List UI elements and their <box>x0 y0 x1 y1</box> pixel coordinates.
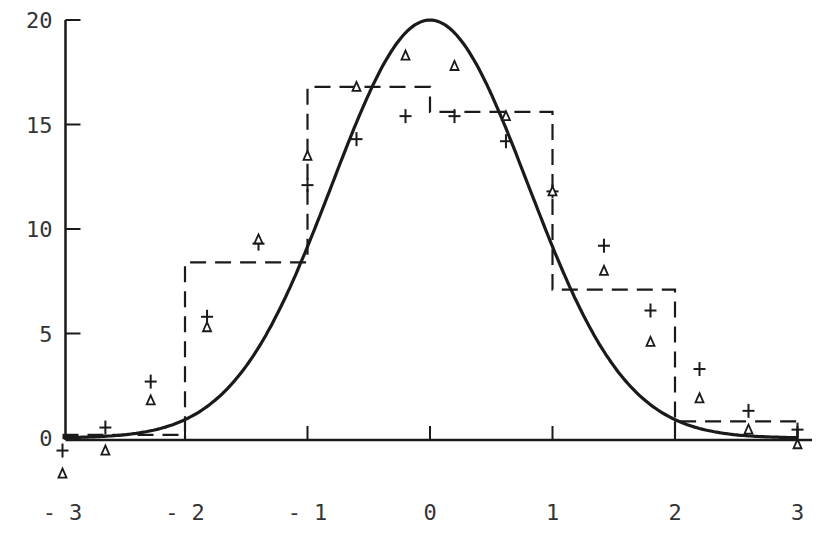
plus-marker <box>694 362 706 376</box>
x-tick-label: - 2 <box>165 500 205 525</box>
x-tick-label: 1 <box>546 500 559 525</box>
triangle-marker <box>304 151 312 160</box>
x-tick-label: 0 <box>423 500 436 525</box>
triangle-marker <box>549 186 557 195</box>
triangle-marker <box>451 61 459 70</box>
triangle-marker <box>59 469 67 478</box>
plus-markers <box>57 109 804 457</box>
y-tick-label: 20 <box>26 8 53 33</box>
x-tick-label: 3 <box>791 500 804 525</box>
triangle-marker <box>203 322 211 331</box>
y-tick-label: 10 <box>26 217 53 242</box>
plus-marker <box>145 375 157 389</box>
triangle-marker <box>353 82 361 91</box>
triangle-marker <box>696 393 704 402</box>
normal-curve <box>63 20 798 438</box>
tick-labels: 05101520- 3- 2- 10123 <box>26 8 804 525</box>
triangle-markers <box>59 51 802 478</box>
plus-marker <box>792 423 804 437</box>
triangle-marker <box>147 395 155 404</box>
triangle-marker <box>600 266 608 275</box>
x-tick-label: - 3 <box>43 500 83 525</box>
plus-marker <box>57 444 69 458</box>
plus-marker <box>400 109 412 123</box>
triangle-marker <box>101 446 109 455</box>
plus-marker <box>645 304 657 318</box>
triangle-marker <box>647 337 655 346</box>
plus-marker <box>743 404 755 418</box>
axes <box>66 20 813 440</box>
chart: 05101520- 3- 2- 10123 <box>0 0 816 539</box>
x-tick-label: 2 <box>668 500 681 525</box>
plus-marker <box>302 178 314 192</box>
plus-marker <box>99 421 111 435</box>
histogram-steps <box>63 87 798 438</box>
x-tick-label: - 1 <box>288 500 328 525</box>
y-tick-label: 0 <box>39 426 52 451</box>
triangle-marker <box>402 51 410 60</box>
triangle-marker <box>745 425 753 434</box>
plus-marker <box>598 239 610 253</box>
y-tick-label: 15 <box>26 113 53 138</box>
triangle-marker <box>255 234 263 243</box>
y-tick-label: 5 <box>39 322 52 347</box>
